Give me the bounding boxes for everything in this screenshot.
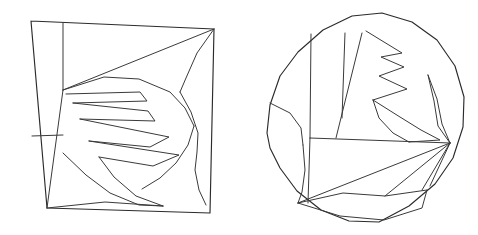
- upper-long-diagonal: [63, 29, 214, 90]
- fan-line-2: [385, 143, 450, 196]
- vertical-divider-left: [310, 34, 311, 138]
- zigzag-row-2: [73, 103, 155, 121]
- zigzag-tail: [373, 100, 409, 142]
- zigzag-row-3: [80, 119, 169, 147]
- zigzag-row-1: [66, 92, 147, 103]
- outer-curve-right-lobe: [180, 92, 206, 205]
- lower-leaf-curve-2: [63, 153, 163, 206]
- right-lens-outer: [428, 75, 450, 143]
- left-short-horizontal: [32, 135, 63, 136]
- fan-line-1: [298, 143, 450, 203]
- circle-partition-figure: [267, 13, 464, 222]
- figure-canvas: [0, 0, 478, 235]
- left-lower-vertical: [308, 138, 310, 203]
- bottom-zigzag: [47, 202, 163, 208]
- circle-outline: [267, 13, 464, 222]
- bottom-zigzag-inner: [298, 190, 427, 203]
- zigzag-top: [366, 31, 407, 100]
- diagonal-to-bottom-left: [47, 90, 63, 208]
- diagonal-divider: [336, 33, 362, 138]
- left-arc-upper: [270, 103, 303, 145]
- right-curve-from-corner: [180, 29, 214, 92]
- zigzag-lower: [373, 100, 440, 142]
- left-arc-lower: [298, 145, 305, 203]
- leaf-lower-outline: [142, 126, 194, 189]
- line-art-svg: [0, 0, 478, 235]
- square-partition-figure: [31, 21, 214, 213]
